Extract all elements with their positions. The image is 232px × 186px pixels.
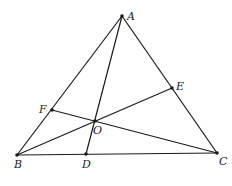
segment-bc bbox=[17, 153, 217, 155]
label-e: E bbox=[175, 80, 184, 93]
label-c: C bbox=[219, 155, 228, 168]
point-a bbox=[120, 14, 124, 18]
point-d bbox=[84, 152, 88, 156]
triangle-diagram: ABCDEFO bbox=[0, 0, 232, 186]
label-o: O bbox=[93, 124, 102, 137]
segment-ab bbox=[17, 16, 122, 155]
label-b: B bbox=[13, 158, 22, 171]
point-b bbox=[15, 153, 19, 157]
label-d: D bbox=[81, 158, 91, 171]
label-f: F bbox=[38, 103, 47, 116]
label-a: A bbox=[126, 10, 135, 23]
point-o bbox=[93, 119, 97, 123]
point-f bbox=[50, 108, 54, 112]
segments bbox=[17, 16, 217, 155]
point-e bbox=[170, 86, 174, 90]
segment-ad bbox=[86, 16, 122, 154]
